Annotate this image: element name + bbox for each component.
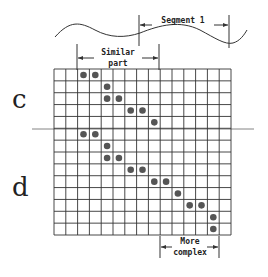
row-label-c: c bbox=[12, 84, 27, 114]
complex-label-2: complex bbox=[173, 248, 207, 257]
match-dot bbox=[80, 131, 87, 138]
match-dot bbox=[139, 107, 146, 114]
match-dot bbox=[92, 72, 99, 79]
match-dot bbox=[127, 107, 134, 114]
match-dot bbox=[210, 226, 217, 233]
match-dot bbox=[139, 166, 146, 173]
match-dot bbox=[210, 214, 217, 221]
match-dot bbox=[151, 119, 158, 126]
match-dot bbox=[163, 178, 170, 185]
similar-label-2: part bbox=[108, 59, 127, 68]
match-dot bbox=[175, 190, 182, 197]
match-dot bbox=[104, 83, 111, 90]
match-dot bbox=[104, 143, 111, 150]
similar-label-1: Similar bbox=[101, 47, 135, 57]
row-label-d: d bbox=[12, 172, 29, 202]
match-dot bbox=[198, 202, 205, 209]
match-dot bbox=[116, 155, 123, 162]
matrix-grid bbox=[54, 69, 231, 235]
match-dot bbox=[116, 95, 123, 102]
time-series-curve bbox=[55, 24, 247, 43]
match-dot bbox=[92, 131, 99, 138]
complex-label-1: More bbox=[180, 237, 199, 246]
match-dot bbox=[104, 95, 111, 102]
match-dot bbox=[127, 166, 134, 173]
match-dot bbox=[151, 178, 158, 185]
similarity-matrix-diagram: Segment 1 Similar part c d More complex bbox=[0, 0, 268, 277]
match-dot bbox=[186, 202, 193, 209]
match-dot bbox=[104, 155, 111, 162]
segment-label: Segment 1 bbox=[161, 16, 205, 25]
match-dot bbox=[80, 72, 87, 79]
